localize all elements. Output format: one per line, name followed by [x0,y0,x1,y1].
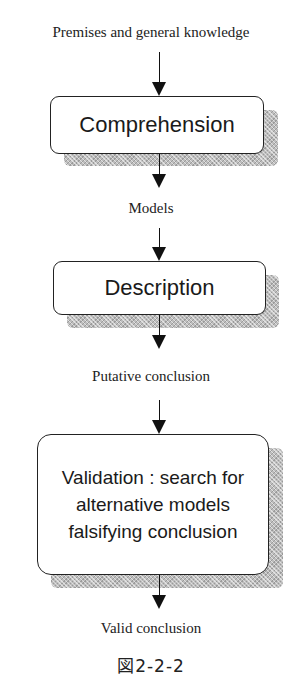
arrow-down-icon [152,400,166,434]
figure-caption: 図2-2-2 [0,652,302,677]
putative-conclusion-label: Putative conclusion [0,368,302,385]
arrow-down-icon [152,52,166,96]
validation-label-line-3: falsifying conclusion [69,518,238,545]
arrow-down-icon [152,228,166,261]
validation-label-line-1: Validation : search for [62,464,244,491]
arrow-down-icon [152,315,166,351]
comprehension-label: Comprehension [79,112,234,138]
arrow-down-icon [152,154,166,190]
comprehension-box: Comprehension [50,96,264,154]
description-label: Description [104,275,214,301]
models-label: Models [0,200,302,217]
input-label: Premises and general knowledge [0,24,302,41]
description-box: Description [53,261,266,315]
arrow-down-icon [152,575,166,611]
validation-box: Validation : search for alternative mode… [37,434,269,575]
validation-label-line-2: alternative models [76,491,230,518]
valid-conclusion-label: Valid conclusion [0,620,302,637]
